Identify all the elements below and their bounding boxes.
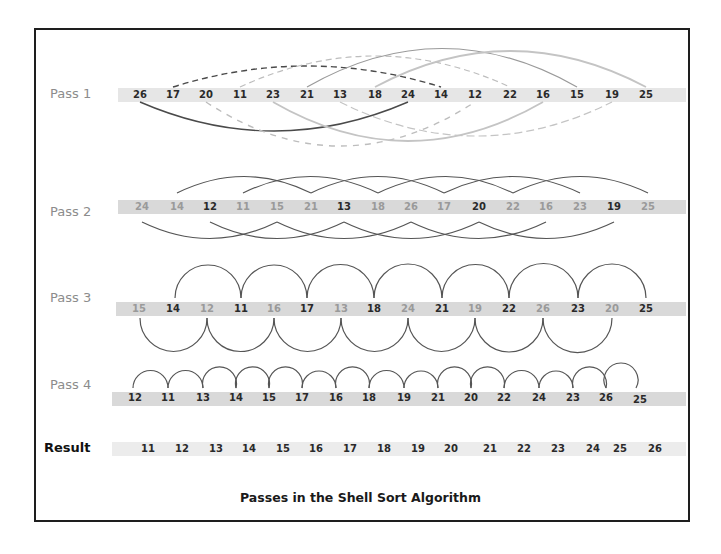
value-cell: 16 — [329, 392, 343, 404]
value-cell: 26 — [404, 201, 418, 213]
value-cell: 13 — [333, 89, 347, 101]
value-cell: 17 — [295, 392, 309, 404]
value-cell: 11 — [141, 443, 155, 455]
value-cell: 15 — [132, 303, 146, 315]
value-cell: 18 — [371, 201, 385, 213]
value-cell: 22 — [503, 89, 517, 101]
value-cell: 13 — [334, 303, 348, 315]
value-cell: 22 — [502, 303, 516, 315]
value-cell: 12 — [468, 89, 482, 101]
value-cell: 25 — [633, 394, 647, 406]
value-cell: 18 — [367, 303, 381, 315]
value-cell: 17 — [300, 303, 314, 315]
value-cell: 12 — [203, 201, 217, 213]
value-cell: 15 — [270, 201, 284, 213]
value-cell: 23 — [551, 443, 565, 455]
value-cell: 17 — [166, 89, 180, 101]
value-cell: 21 — [304, 201, 318, 213]
value-cell: 26 — [648, 443, 662, 455]
value-cell: 12 — [175, 443, 189, 455]
value-cell: 11 — [234, 303, 248, 315]
value-cell: 26 — [536, 303, 550, 315]
value-cell: 20 — [472, 201, 486, 213]
value-cell: 26 — [133, 89, 147, 101]
value-cell: 19 — [607, 201, 621, 213]
value-cell: 16 — [267, 303, 281, 315]
value-cell: 12 — [128, 392, 142, 404]
value-cell: 20 — [444, 443, 458, 455]
value-cell: 15 — [276, 443, 290, 455]
value-cell: 22 — [517, 443, 531, 455]
value-cell: 15 — [262, 392, 276, 404]
diagram-caption: Passes in the Shell Sort Algorithm — [0, 490, 721, 505]
pass-1-label: Pass 1 — [50, 86, 91, 101]
value-cell: 14 — [242, 443, 256, 455]
value-cell: 19 — [468, 303, 482, 315]
value-cell: 20 — [464, 392, 478, 404]
value-cell: 13 — [196, 392, 210, 404]
value-cell: 23 — [573, 201, 587, 213]
value-cell: 18 — [362, 392, 376, 404]
value-cell: 26 — [599, 392, 613, 404]
pass-2-label: Pass 2 — [50, 204, 91, 219]
value-cell: 16 — [536, 89, 550, 101]
value-cell: 23 — [266, 89, 280, 101]
value-cell: 19 — [397, 392, 411, 404]
value-cell: 22 — [497, 392, 511, 404]
value-cell: 14 — [229, 392, 243, 404]
value-cell: 19 — [605, 89, 619, 101]
value-cell: 25 — [613, 443, 627, 455]
value-cell: 20 — [199, 89, 213, 101]
value-cell: 11 — [161, 392, 175, 404]
value-cell: 13 — [209, 443, 223, 455]
pass-3-label: Pass 3 — [50, 290, 91, 305]
value-cell: 25 — [639, 303, 653, 315]
value-cell: 23 — [566, 392, 580, 404]
result-label: Result — [44, 440, 91, 455]
value-cell: 15 — [570, 89, 584, 101]
pass-4-label: Pass 4 — [50, 377, 91, 392]
value-cell: 11 — [233, 89, 247, 101]
value-cell: 16 — [309, 443, 323, 455]
value-cell: 24 — [401, 89, 415, 101]
value-cell: 18 — [368, 89, 382, 101]
value-cell: 24 — [135, 201, 149, 213]
value-cell: 24 — [532, 392, 546, 404]
value-cell: 25 — [639, 89, 653, 101]
value-cell: 16 — [539, 201, 553, 213]
value-cell: 13 — [337, 201, 351, 213]
value-cell: 21 — [300, 89, 314, 101]
value-cell: 22 — [506, 201, 520, 213]
value-cell: 23 — [571, 303, 585, 315]
value-cell: 14 — [166, 303, 180, 315]
value-cell: 24 — [586, 443, 600, 455]
value-cell: 21 — [435, 303, 449, 315]
value-cell: 11 — [236, 201, 250, 213]
value-cell: 17 — [437, 201, 451, 213]
value-cell: 18 — [377, 443, 391, 455]
value-cell: 19 — [411, 443, 425, 455]
value-cell: 21 — [431, 392, 445, 404]
value-cell: 12 — [200, 303, 214, 315]
value-cell: 17 — [343, 443, 357, 455]
value-cell: 24 — [401, 303, 415, 315]
value-cell: 14 — [170, 201, 184, 213]
value-cell: 25 — [641, 201, 655, 213]
value-cell: 14 — [434, 89, 448, 101]
value-cell: 21 — [483, 443, 497, 455]
value-cell: 20 — [605, 303, 619, 315]
